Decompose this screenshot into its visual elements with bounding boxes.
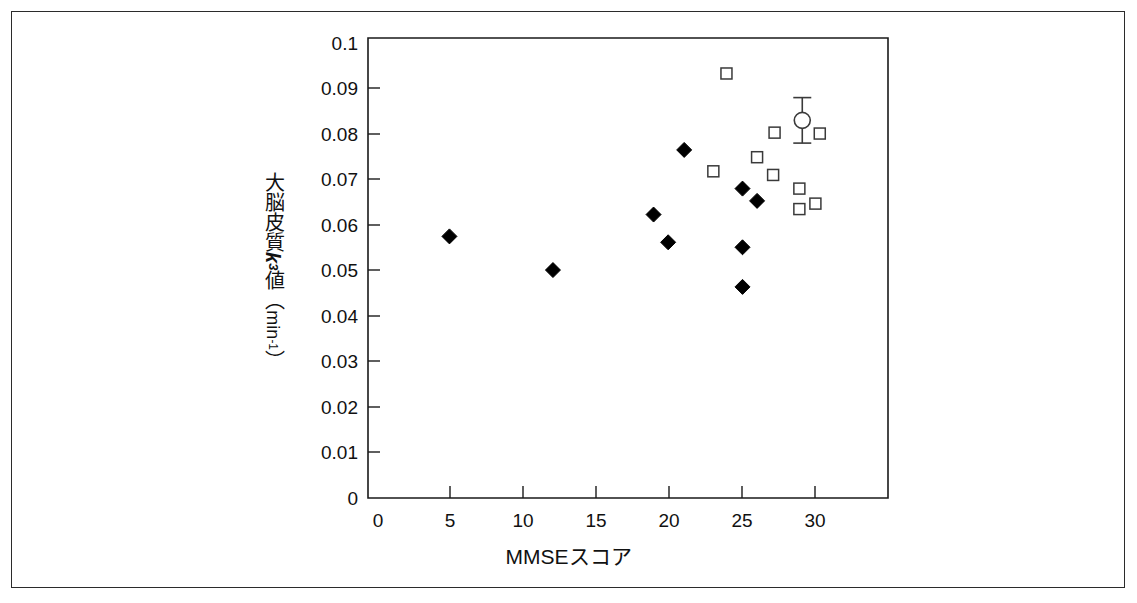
y-title-unit-open: （ [262, 290, 284, 310]
y-title-symbol: k [262, 252, 284, 263]
y-tick-label: 0 [347, 488, 358, 509]
data-point-diamond [735, 181, 750, 196]
x-tick-label: 25 [731, 510, 752, 531]
plot-svg: 0.1 0.09 0.08 0.07 0.06 0.05 0.04 0.03 0… [0, 0, 1137, 603]
data-point-diamond [661, 235, 676, 250]
data-point-diamond [677, 142, 692, 157]
y-tick-labels: 0.1 0.09 0.08 0.07 0.06 0.05 0.04 0.03 0… [321, 33, 358, 509]
data-point-diamond [750, 193, 765, 208]
data-point-square [768, 169, 779, 180]
data-markers-layer [442, 68, 825, 294]
data-point-mean-circle [794, 112, 810, 128]
data-point-square [769, 127, 780, 138]
y-tick-label: 0.08 [321, 124, 358, 145]
y-title-unit-exponent: -1 [266, 339, 280, 350]
x-tick-labels: 0 5 10 15 20 25 30 [373, 510, 826, 531]
x-axis-title: MMSEスコア [0, 540, 1137, 570]
data-point-square [708, 166, 719, 177]
data-point-square [794, 183, 805, 194]
y-axis-title: 大脳皮質k3値（min-1） [258, 136, 288, 406]
x-tick-label: 10 [512, 510, 533, 531]
data-point-square [721, 68, 732, 79]
data-point-square [810, 198, 821, 209]
data-point-diamond [735, 279, 750, 294]
x-tick-label: 20 [658, 510, 679, 531]
data-point-square [752, 152, 763, 163]
data-point-square [794, 204, 805, 215]
y-title-unit: min [263, 310, 283, 339]
data-point-diamond [735, 240, 750, 255]
x-tick-label: 15 [585, 510, 606, 531]
data-point-square [814, 128, 825, 139]
y-tick-label: 0.09 [321, 78, 358, 99]
x-tick-label: 30 [804, 510, 825, 531]
x-tick-label: 5 [445, 510, 456, 531]
y-tick-label: 0.04 [321, 306, 358, 327]
y-tick-label: 0.02 [321, 397, 358, 418]
y-title-unit-close: ） [262, 350, 284, 370]
y-tick-label: 0.01 [321, 442, 358, 463]
y-tick-label: 0.05 [321, 260, 358, 281]
data-point-diamond [646, 207, 661, 222]
plot-frame [368, 38, 888, 498]
y-tick-label: 0.1 [332, 33, 358, 54]
data-point-diamond [442, 229, 457, 244]
y-title-middle: 値 [262, 270, 284, 290]
y-tick-label: 0.07 [321, 169, 358, 190]
y-axis-title-text: 大脳皮質k3値（min-1） [263, 172, 283, 370]
y-title-prefix: 大脳皮質 [262, 172, 284, 252]
x-tick-label: 0 [373, 510, 384, 531]
y-tick-label: 0.03 [321, 351, 358, 372]
scatter-chart: 0.1 0.09 0.08 0.07 0.06 0.05 0.04 0.03 0… [0, 0, 1137, 603]
x-axis-ticks [450, 486, 815, 498]
data-point-diamond [545, 263, 560, 278]
y-tick-label: 0.06 [321, 215, 358, 236]
figure-page: 0.1 0.09 0.08 0.07 0.06 0.05 0.04 0.03 0… [0, 0, 1137, 603]
y-axis-ticks [368, 88, 380, 452]
